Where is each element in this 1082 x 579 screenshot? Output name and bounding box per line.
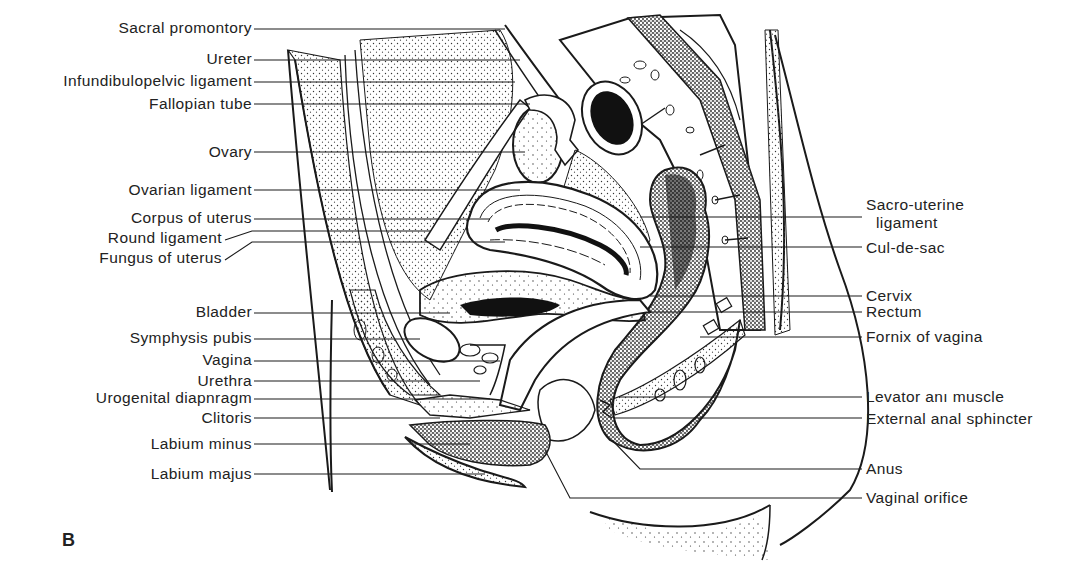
label-ureter: Ureter <box>207 50 252 68</box>
label-sacral-promontory: Sacral promontory <box>119 19 252 37</box>
label-cul-de-sac: Cul-de-sac <box>866 239 945 257</box>
label-round-ligament: Round ligament <box>108 229 222 247</box>
label-vaginal-orifice: Vaginal orifice <box>866 489 968 507</box>
label-rectum: Rectum <box>866 303 922 321</box>
label-fallopian-tube: Fallopian tube <box>149 95 252 113</box>
label-labium-majus: Labium majus <box>151 465 252 483</box>
label-sacro-uterine-ligament-line2: ligament <box>876 214 938 232</box>
urethral-glands <box>460 344 498 374</box>
label-bladder: Bladder <box>196 303 252 321</box>
label-corpus-of-uterus: Corpus of uterus <box>131 209 252 227</box>
label-anus: Anus <box>866 460 903 478</box>
ureter <box>505 25 560 100</box>
label-external-anal-sphincter: External anal sphincter <box>866 410 1033 428</box>
label-fundus-of-uterus: Fungus of uterus <box>99 249 222 267</box>
label-levator-ani-muscle: Levator anı muscle <box>866 388 1004 406</box>
label-fornix-of-vagina: Fornix of vagina <box>866 328 983 346</box>
label-symphysis-pubis: Symphysis pubis <box>130 329 252 347</box>
panel-letter: B <box>62 530 75 551</box>
label-ovarian-ligament: Ovarian ligament <box>128 181 252 199</box>
thigh-line <box>331 300 333 492</box>
label-urethra: Urethra <box>198 372 252 390</box>
anatomy-figure: Sacral promontory Ureter Infundibulopelv… <box>0 0 1082 579</box>
label-infundibulopelvic-ligament: Infundibulopelvic ligament <box>63 72 252 90</box>
label-ovary: Ovary <box>209 143 252 161</box>
label-clitoris: Clitoris <box>201 409 252 427</box>
label-sacro-uterine-ligament: Sacro-uterine <box>866 196 964 214</box>
label-vagina: Vagina <box>202 351 252 369</box>
label-urogenital-diaphragm: Urogenital diapnragm <box>96 389 252 407</box>
urethra <box>470 345 505 395</box>
label-labium-minus: Labium minus <box>151 435 252 453</box>
